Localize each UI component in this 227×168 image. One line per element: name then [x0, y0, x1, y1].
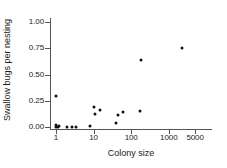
y-tick-mark [45, 101, 50, 102]
data-point [92, 106, 95, 109]
y-tick-mark [45, 48, 50, 49]
y-tick-label: 1.00 [14, 18, 44, 26]
x-tick-label: 10 [89, 134, 98, 142]
x-tick-label: 1000 [160, 134, 177, 142]
x-tick-label: 5000 [186, 134, 203, 142]
scatter-chart-figure: 0.000.250.500.751.00 11010010005000 Colo… [0, 0, 227, 168]
y-tick-label-text: 0.75 [18, 44, 44, 52]
data-point [121, 111, 124, 114]
x-tick-label: 100 [125, 134, 138, 142]
data-point [99, 109, 102, 112]
y-axis-title: Swallow bugs per nesting [2, 10, 12, 130]
y-tick-mark [45, 22, 50, 23]
data-point [94, 113, 97, 116]
data-point [180, 46, 183, 49]
y-tick-label-text: 1.00 [18, 18, 44, 26]
y-tick-label-text: 0.50 [18, 71, 44, 79]
plot-area: 0.000.250.500.751.00 11010010005000 Colo… [0, 0, 227, 168]
y-tick-label-text: 0.00 [18, 123, 44, 131]
data-point [139, 59, 142, 62]
data-point [55, 94, 58, 97]
data-point [138, 109, 141, 112]
y-tick-label: 0.00 [14, 123, 44, 131]
x-tick-label: 1 [54, 134, 58, 142]
data-point [56, 126, 59, 129]
data-point [70, 126, 73, 129]
data-point [115, 121, 118, 124]
y-tick-label-text: 0.25 [18, 97, 44, 105]
y-tick-label: 0.25 [14, 97, 44, 105]
y-tick-mark [45, 75, 50, 76]
data-point [75, 126, 78, 129]
y-tick-label: 0.75 [14, 44, 44, 52]
data-point [66, 126, 69, 129]
y-axis-line [50, 18, 51, 129]
x-axis-title: Colony size [50, 148, 212, 158]
data-point [117, 114, 120, 117]
y-tick-label: 0.50 [14, 71, 44, 79]
y-tick-mark [45, 127, 50, 128]
data-point [88, 125, 91, 128]
